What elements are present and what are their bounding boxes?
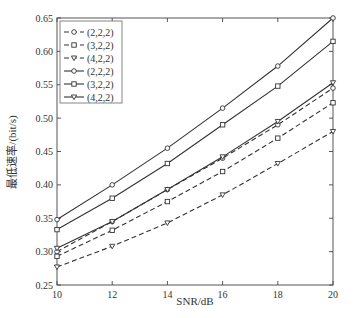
legend-label: (2,2,2) [87,66,114,78]
legend-label: (4,2,2) [87,92,114,104]
square-marker-icon [165,199,169,203]
triangle-marker-icon [220,193,225,198]
circle-marker-icon [72,30,77,35]
circle-marker-icon [110,183,115,188]
square-marker-icon [55,254,59,258]
circle-marker-icon [331,16,336,21]
square-marker-icon [72,43,76,47]
legend-label: (4,2,2) [87,53,114,65]
y-tick-label: 0.25 [36,280,54,291]
square-marker-icon [55,227,59,231]
square-marker-icon [165,161,169,165]
circle-marker-icon [72,69,77,74]
square-marker-icon [331,39,335,43]
circle-marker-icon [165,146,170,151]
y-tick-label: 0.40 [36,179,54,190]
circle-marker-icon [331,86,336,91]
x-tick-label: 14 [162,289,172,300]
legend-label: (3,2,2) [87,79,114,91]
line-chart: 1012141618200.250.300.350.400.450.500.55… [0,0,356,318]
square-marker-icon [276,84,280,88]
triangle-marker-icon [275,162,280,167]
y-tick-label: 0.65 [36,13,54,24]
square-marker-icon [331,101,335,105]
circle-marker-icon [55,217,60,222]
square-marker-icon [220,169,224,173]
circle-marker-icon [276,64,281,69]
legend-label: (2,2,2) [87,27,114,39]
triangle-marker-icon [330,129,335,134]
triangle-marker-icon [54,265,59,270]
y-tick-label: 0.45 [36,146,54,157]
series [55,101,335,259]
square-marker-icon [110,196,114,200]
x-tick-label: 10 [52,289,62,300]
series [54,129,335,269]
legend-label: (3,2,2) [87,40,114,52]
series [54,81,335,251]
x-axis-label: SNR/dB [176,295,213,307]
y-tick-label: 0.60 [36,46,54,57]
circle-marker-icon [220,106,225,111]
y-axis-label: 最低速率/(bit/s) [5,115,19,189]
x-tick-label: 12 [107,289,117,300]
y-tick-label: 0.30 [36,246,54,257]
square-marker-icon [72,82,76,86]
square-marker-icon [220,123,224,127]
legend: (2,2,2)(3,2,2)(4,2,2)(2,2,2)(3,2,2)(4,2,… [60,21,122,104]
square-marker-icon [110,228,114,232]
triangle-marker-icon [165,221,170,226]
y-tick-label: 0.35 [36,213,54,224]
x-tick-label: 16 [218,289,228,300]
x-tick-label: 20 [328,289,338,300]
square-marker-icon [276,136,280,140]
x-tick-label: 18 [273,289,283,300]
y-tick-label: 0.50 [36,113,54,124]
y-tick-label: 0.55 [36,79,54,90]
